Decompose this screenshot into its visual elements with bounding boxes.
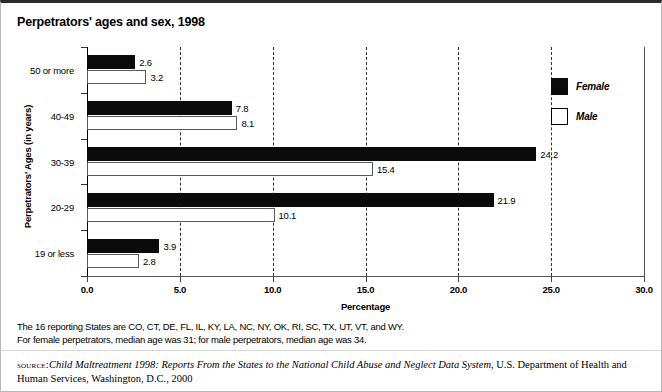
x-axis-tick [366,276,367,282]
x-axis-tick [551,276,552,282]
bar-value-label: 24.2 [540,149,558,160]
bar-male: 8.1 [87,116,237,130]
bar-male: 10.1 [87,208,275,222]
bar-male: 3.2 [87,70,146,84]
legend-label-female: Female [576,81,609,92]
legend-swatch-male-icon [551,108,568,125]
x-axis-tick [644,276,645,282]
y-axis-category-label: 40-49 [51,110,74,121]
x-axis-tick-label: 30.0 [635,284,652,295]
y-axis-category-label: 19 or less [35,248,74,259]
x-axis-tick [273,276,274,282]
x-axis-tick-label: 0.0 [81,284,93,295]
y-axis-tick [81,139,87,140]
bar-value-label: 2.6 [139,57,152,68]
x-axis-tick-label: 5.0 [174,284,186,295]
source-title: Child Maltreatment 1998: Reports From th… [49,359,491,370]
y-axis-category-label: 50 or more [30,64,74,75]
x-axis-tick-label: 10.0 [264,284,281,295]
bar-male: 15.4 [87,162,373,176]
bar-female: 24.2 [87,147,536,161]
legend-item-male: Male [551,101,609,131]
bar-value-label: 10.1 [279,209,297,220]
bar-value-label: 8.1 [241,118,254,129]
legend-item-female: Female [551,71,609,101]
source-label: source: [17,359,49,370]
bar-value-label: 3.9 [163,240,176,251]
source-note: source:Child Maltreatment 1998: Reports … [17,358,651,386]
legend-swatch-female-icon [551,78,568,95]
x-axis-tick [458,276,459,282]
x-axis-tick [87,276,88,282]
bar-value-label: 21.9 [498,194,516,205]
y-axis-tick [81,184,87,185]
footnotes: The 16 reporting States are CO, CT, DE, … [17,321,404,346]
x-axis-tick-label: 25.0 [543,284,560,295]
chart-title: Perpetrators' ages and sex, 1998 [17,15,205,29]
y-axis-category-label: 30-39 [51,156,74,167]
y-axis-category-label: 20-29 [51,202,74,213]
footnote-line-2: For female perpetrators, median age was … [17,334,404,347]
bar-male: 2.8 [87,254,139,268]
x-axis-tick [180,276,181,282]
legend: Female Male [551,71,609,131]
bar-value-label: 7.8 [236,103,249,114]
y-axis-tick [81,276,87,277]
gridline [644,47,645,276]
gridline [458,47,459,276]
bar-value-label: 15.4 [377,164,395,175]
bar-female: 2.6 [87,55,135,69]
bar-female: 7.8 [87,101,232,115]
footnote-line-1: The 16 reporting States are CO, CT, DE, … [17,321,404,334]
y-axis-tick [81,47,87,48]
x-axis-tick-label: 15.0 [357,284,374,295]
y-axis-tick [81,93,87,94]
x-axis-tick-label: 20.0 [450,284,467,295]
x-axis-title: Percentage [87,301,644,312]
y-axis-title: Perpetrators' Ages (in years) [22,67,33,267]
bar-female: 3.9 [87,239,159,253]
chart-figure: Perpetrators' ages and sex, 1998 Perpetr… [0,0,662,392]
bar-female: 21.9 [87,193,494,207]
bar-value-label: 2.8 [143,255,156,266]
bar-value-label: 3.2 [150,72,163,83]
legend-label-male: Male [576,111,597,122]
y-axis-tick [81,230,87,231]
source-divider [1,350,661,351]
